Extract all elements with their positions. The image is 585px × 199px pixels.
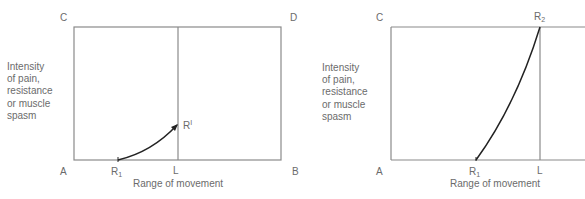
left-l-label: L [173,165,179,177]
left-corner-c: C [60,12,67,24]
left-corner-a: A [60,166,67,178]
left-corner-b: B [292,166,299,178]
left-r1-label: R1 [111,166,122,181]
right-corner-c: C [376,12,383,24]
left-curve [118,125,177,160]
left-y-axis-label: Intensity of pain, resistance or muscle … [7,61,53,122]
right-r2-label: R2 [534,11,545,26]
left-r-prime-label: RI [183,117,192,132]
left-corner-d: D [290,12,297,24]
left-x-axis-label: Range of movement [133,178,223,190]
right-y-axis-label: Intensity of pain, resistance or muscle … [322,62,368,123]
right-x-axis-label: Range of movement [450,178,540,190]
right-l-label: L [537,165,543,177]
right-curve [476,27,540,160]
right-corner-a: A [376,166,383,178]
